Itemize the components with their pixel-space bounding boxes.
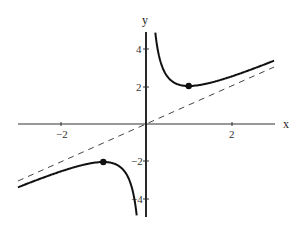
tick-labels: −2 2 4 2 −2 −4 x y (56, 13, 289, 205)
extremum-point (186, 83, 192, 89)
y-tick-label: 2 (136, 81, 142, 93)
y-tick-label: 4 (136, 43, 142, 55)
y-axis-label: y (142, 13, 148, 27)
curve-branch (18, 162, 137, 215)
function-plot: −2 2 4 2 −2 −4 x y (0, 0, 304, 233)
curve-branch (155, 33, 274, 86)
extremum-point (100, 159, 106, 165)
axes (18, 32, 275, 217)
x-tick-label: 2 (229, 128, 235, 140)
x-tick-label: −2 (56, 128, 68, 140)
x-axis-label: x (283, 117, 289, 131)
y-tick-label: −2 (131, 155, 143, 167)
